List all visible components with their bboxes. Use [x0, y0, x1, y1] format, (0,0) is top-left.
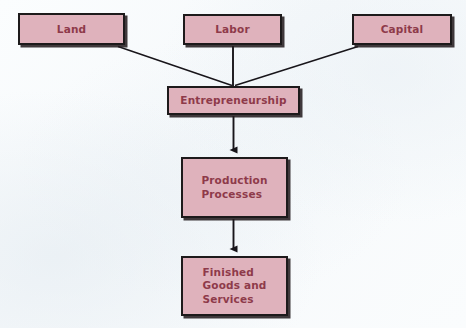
node-labor-label: Labor — [215, 23, 249, 36]
node-labor[interactable]: Labor — [183, 14, 282, 45]
node-production-processes-label: Production Processes — [201, 174, 267, 201]
node-finished-goods-and-services[interactable]: Finished Goods and Services — [181, 256, 288, 316]
node-entrepreneurship[interactable]: Entrepreneurship — [167, 86, 300, 115]
node-capital-label: Capital — [381, 23, 424, 36]
node-production-processes[interactable]: Production Processes — [181, 157, 288, 218]
connector-land-to-entrepreneurship — [118, 47, 232, 86]
connector-capital-to-entrepreneurship — [235, 47, 358, 86]
node-capital[interactable]: Capital — [352, 14, 452, 45]
node-land[interactable]: Land — [18, 13, 125, 45]
node-entrepreneurship-label: Entrepreneurship — [180, 94, 286, 107]
node-finished-goods-and-services-label: Finished Goods and Services — [203, 266, 267, 307]
node-land-label: Land — [57, 23, 86, 36]
flow-diagram-canvas: Land Labor Capital Entrepreneurship Prod… — [0, 0, 466, 328]
